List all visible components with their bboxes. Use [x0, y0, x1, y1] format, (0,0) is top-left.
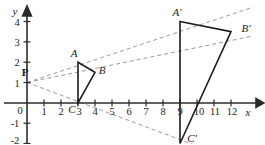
x-axis-arrow-icon — [256, 99, 264, 108]
y-tick-label-2: 2 — [14, 57, 19, 68]
vertex-label-C-prime: C′ — [187, 132, 197, 144]
x-axis-label: x — [245, 106, 251, 118]
axes-group — [4, 6, 264, 144]
triangle-a-prime-b-prime-c-prime-group — [180, 22, 231, 144]
y-tick-label-4: 4 — [14, 17, 20, 28]
ray-P-to-A-prime-icon — [27, 7, 253, 82]
triangle-a-prime-b-prime-c-prime — [180, 22, 231, 144]
x-tick-label-3: 3 — [76, 106, 81, 117]
vertex-label-B-prime: B′ — [241, 22, 251, 34]
vertex-text-group: P A B C A′ B′ C′ — [22, 6, 252, 144]
x-tick-label-8: 8 — [160, 106, 165, 117]
y-axis-label: y — [12, 5, 18, 17]
origin-label: 0 — [17, 105, 22, 116]
dilation-figure: y x 0 1 2 3 4 5 6 7 8 9 10 11 12 4 3 2 1… — [0, 0, 265, 144]
vertex-label-C: C — [68, 103, 76, 115]
x-tick-label-1: 1 — [41, 106, 46, 117]
x-tick-label-5: 5 — [109, 106, 114, 117]
x-tick-label-2: 2 — [58, 106, 63, 117]
y-tick-label-neg1: -1 — [11, 118, 20, 129]
triangle-abc — [78, 62, 95, 103]
x-tick-label-12: 12 — [227, 106, 238, 117]
x-tick-label-9: 9 — [177, 106, 182, 117]
y-tick-label-3: 3 — [14, 37, 19, 48]
axis-text-group: y x 0 1 2 3 4 5 6 7 8 9 10 11 12 4 3 2 1… — [11, 5, 251, 144]
vertex-label-A: A — [70, 47, 78, 59]
x-tick-label-4: 4 — [92, 106, 98, 117]
y-axis-arrow-icon — [23, 6, 32, 16]
dashed-rays-group — [27, 7, 253, 144]
vertex-label-A-prime: A′ — [171, 6, 182, 18]
triangle-abc-group — [78, 62, 95, 103]
y-tick-label-neg2: -2 — [11, 135, 20, 145]
x-tick-label-6: 6 — [126, 106, 131, 117]
x-tick-label-11: 11 — [210, 106, 220, 117]
x-tick-label-7: 7 — [143, 106, 148, 117]
x-tick-label-10: 10 — [194, 106, 205, 117]
coordinate-plane-svg: y x 0 1 2 3 4 5 6 7 8 9 10 11 12 4 3 2 1… — [0, 0, 265, 144]
y-tick-label-1: 1 — [14, 78, 19, 89]
vertex-label-B: B — [99, 64, 106, 76]
center-point-label-P: P — [22, 66, 29, 78]
